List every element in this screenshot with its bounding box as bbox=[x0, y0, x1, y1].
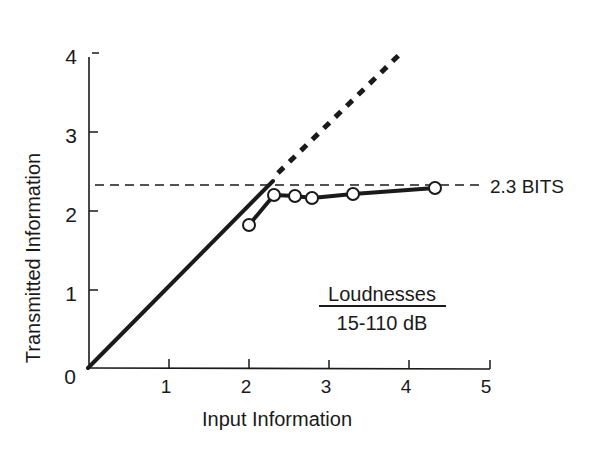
legend-subtitle: 15-110 dB bbox=[337, 312, 428, 334]
legend: Loudnesses 15-110 dB bbox=[319, 283, 446, 334]
y-axis-title: Transmitted Information bbox=[22, 153, 44, 363]
x-axis-title: Input Information bbox=[202, 408, 352, 430]
data-point-marker bbox=[306, 192, 318, 204]
data-point-marker bbox=[268, 189, 280, 201]
x-tick-labels: 1 2 3 4 5 bbox=[161, 376, 492, 397]
data-point-marker bbox=[429, 182, 441, 194]
data-point-marker bbox=[289, 190, 301, 202]
x-tick-label-4: 4 bbox=[401, 376, 412, 397]
loudness-series bbox=[243, 182, 441, 231]
y-tick-label-3: 3 bbox=[65, 124, 77, 147]
chart: 4 3 2 1 0 1 2 3 4 5 Input Information Tr… bbox=[0, 0, 600, 449]
axes bbox=[88, 57, 490, 369]
perfect-transmission-extrapolation bbox=[278, 52, 402, 173]
x-axis-line bbox=[88, 368, 490, 369]
x-tick-label-2: 2 bbox=[241, 376, 252, 397]
y-tick-labels: 4 3 2 1 0 bbox=[64, 45, 77, 388]
y-tick-label-4: 4 bbox=[65, 45, 77, 68]
x-ticks bbox=[169, 359, 490, 369]
x-tick-label-1: 1 bbox=[161, 376, 172, 397]
legend-title: Loudnesses bbox=[328, 283, 436, 305]
data-point-marker bbox=[243, 219, 255, 231]
y-tick-label-1: 1 bbox=[65, 282, 77, 305]
perfect-transmission-line bbox=[88, 181, 273, 368]
data-point-marker bbox=[347, 188, 359, 200]
capacity-label: 2.3 BITS bbox=[490, 176, 564, 197]
y-tick-label-0: 0 bbox=[64, 365, 76, 388]
y-tick-label-2: 2 bbox=[65, 203, 77, 226]
x-tick-label-5: 5 bbox=[481, 376, 492, 397]
x-tick-label-3: 3 bbox=[321, 376, 332, 397]
y-ticks bbox=[89, 53, 99, 290]
